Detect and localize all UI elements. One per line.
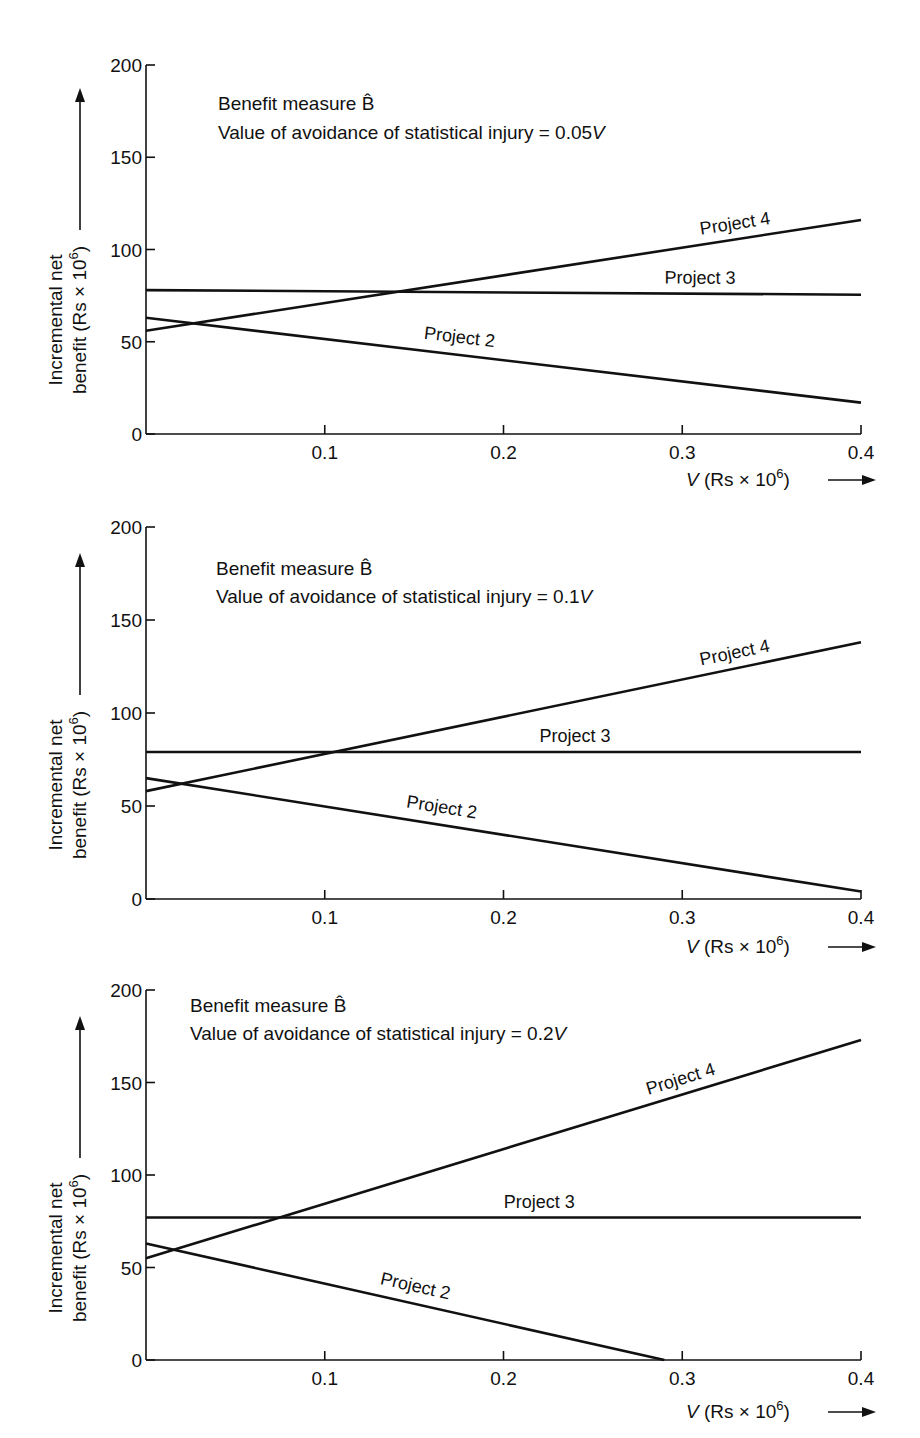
y-tick-label: 200 [110, 980, 142, 1001]
series-line-project-4 [146, 1040, 861, 1258]
x-tick-label: 0.3 [669, 442, 695, 463]
arrow-up-icon [75, 1016, 85, 1030]
series-line-project-4 [146, 642, 861, 791]
benefit-measure-note: Benefit measure B̂ [216, 558, 372, 579]
x-tick-label: 0.2 [490, 907, 516, 928]
y-tick-label: 0 [131, 889, 142, 910]
y-axis-label: Incremental netbenefit (Rs × 106) [45, 88, 90, 394]
y-tick-label: 0 [131, 1350, 142, 1371]
series-label-project-2: Project 2 [405, 792, 478, 823]
benefit-measure-note: Benefit measure B̂ [218, 93, 374, 114]
y-tick-label: 150 [110, 610, 142, 631]
y-tick-label: 100 [110, 240, 142, 261]
svg-text:Incremental net: Incremental net [45, 254, 66, 386]
y-tick-label: 50 [121, 1258, 142, 1279]
svg-text:Incremental net: Incremental net [45, 1182, 66, 1314]
y-tick-label: 0 [131, 424, 142, 445]
x-tick-label: 0.1 [312, 1368, 338, 1389]
injury-value-note: Value of avoidance of statistical injury… [190, 1023, 569, 1044]
svg-text:benefit (Rs × 106): benefit (Rs × 106) [66, 711, 90, 859]
y-tick-label: 200 [110, 55, 142, 76]
x-tick-label: 0.1 [312, 442, 338, 463]
x-tick-label: 0.1 [312, 907, 338, 928]
svg-text:Incremental net: Incremental net [45, 719, 66, 851]
series-line-project-4 [146, 220, 861, 331]
chart-panel-2: 0501001502000.10.20.30.4Benefit measure … [45, 517, 876, 957]
x-axis-label: V (Rs × 106) [686, 933, 790, 957]
y-axis-label: Incremental netbenefit (Rs × 106) [45, 1016, 90, 1322]
y-axis-label: Incremental netbenefit (Rs × 106) [45, 553, 90, 859]
benefit-measure-note: Benefit measure B̂ [190, 995, 346, 1016]
series-line-project-2 [146, 778, 861, 891]
x-axis-label: V (Rs × 106) [686, 1398, 790, 1422]
arrow-up-icon [75, 88, 85, 102]
series-line-project-3 [146, 290, 861, 295]
arrow-up-icon [75, 553, 85, 567]
x-tick-label: 0.3 [669, 1368, 695, 1389]
y-tick-label: 100 [110, 703, 142, 724]
series-label-project-4: Project 4 [698, 208, 771, 239]
y-tick-label: 100 [110, 1165, 142, 1186]
svg-text:benefit (Rs × 106): benefit (Rs × 106) [66, 246, 90, 394]
series-label-project-3: Project 3 [665, 267, 736, 287]
series-label-project-2: Project 2 [423, 323, 496, 351]
y-tick-label: 50 [121, 332, 142, 353]
x-tick-label: 0.4 [848, 1368, 875, 1389]
figure-canvas: 0501001502000.10.20.30.4Benefit measure … [0, 0, 920, 1438]
x-tick-label: 0.2 [490, 442, 516, 463]
y-tick-label: 150 [110, 147, 142, 168]
x-tick-label: 0.4 [848, 442, 875, 463]
injury-value-note: Value of avoidance of statistical injury… [216, 586, 595, 607]
series-label-project-3: Project 3 [539, 726, 610, 746]
chart-panel-1: 0501001502000.10.20.30.4Benefit measure … [45, 55, 876, 490]
x-tick-label: 0.2 [490, 1368, 516, 1389]
arrow-right-icon [862, 942, 876, 952]
y-tick-label: 150 [110, 1073, 142, 1094]
svg-text:benefit (Rs × 106): benefit (Rs × 106) [66, 1174, 90, 1322]
series-line-project-2 [146, 318, 861, 403]
arrow-right-icon [862, 1407, 876, 1417]
x-tick-label: 0.3 [669, 907, 695, 928]
arrow-right-icon [862, 475, 876, 485]
y-tick-label: 50 [121, 796, 142, 817]
x-tick-label: 0.4 [848, 907, 875, 928]
x-axis-label: V (Rs × 106) [686, 466, 790, 490]
series-label-project-4: Project 4 [644, 1059, 718, 1099]
series-label-project-3: Project 3 [504, 1192, 575, 1212]
injury-value-note: Value of avoidance of statistical injury… [218, 122, 607, 143]
chart-panel-3: 0501001502000.10.20.30.4Benefit measure … [45, 980, 876, 1422]
y-tick-label: 200 [110, 517, 142, 538]
series-line-project-2 [146, 1243, 664, 1360]
